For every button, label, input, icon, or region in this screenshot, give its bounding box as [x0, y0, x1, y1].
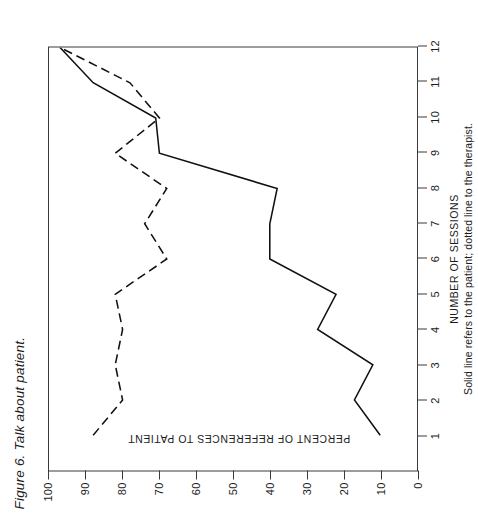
x-tick-mark: [418, 328, 427, 329]
figure-root: Figure 6. Talk about patient. 0102030405…: [0, 0, 478, 527]
y-tick-label: 50: [228, 482, 239, 522]
series-line-patient: [60, 47, 380, 435]
y-tick-label: 0: [413, 482, 424, 522]
plot-area: [48, 46, 418, 471]
y-tick-label: 10: [376, 482, 387, 522]
x-tick-label: 10: [430, 111, 441, 124]
x-tick-label: 12: [430, 40, 441, 53]
x-tick-label: 5: [430, 291, 441, 297]
x-tick-label: 9: [430, 149, 441, 155]
y-tick-label: 100: [43, 482, 54, 522]
x-tick-label: 3: [430, 362, 441, 368]
x-tick-label: 6: [430, 255, 441, 261]
x-tick-mark: [418, 80, 427, 81]
y-tick-label: 70: [154, 482, 165, 522]
y-axis-title: PERCENT OF REFERENCES TO PATIENT: [54, 432, 424, 444]
x-tick-label: 2: [430, 397, 441, 403]
x-tick-mark: [418, 293, 427, 294]
x-tick-mark: [418, 187, 427, 188]
x-tick-label: 1: [430, 432, 441, 438]
x-tick-mark: [418, 222, 427, 223]
y-tick-label: 90: [80, 482, 91, 522]
x-tick-mark: [418, 151, 427, 152]
y-tick-mark: [418, 470, 419, 479]
series-line-therapist: [60, 47, 167, 435]
x-tick-mark: [418, 258, 427, 259]
y-tick-label: 60: [191, 482, 202, 522]
figure-caption: Solid line refers to the patient; dotted…: [462, 46, 474, 471]
y-tick-label: 20: [339, 482, 350, 522]
figure-6: Figure 6. Talk about patient. 0102030405…: [0, 0, 478, 527]
y-tick-label: 80: [117, 482, 128, 522]
x-tick-mark: [418, 399, 427, 400]
x-tick-label: 8: [430, 185, 441, 191]
rotated-page-content: Figure 6. Talk about patient. 0102030405…: [0, 0, 478, 527]
x-tick-mark: [418, 364, 427, 365]
figure-title: Figure 6. Talk about patient.: [12, 336, 27, 509]
y-tick-label: 30: [302, 482, 313, 522]
y-tick-label: 40: [265, 482, 276, 522]
x-axis-title: NUMBER OF SESSIONS: [448, 46, 460, 471]
plot-lines: [49, 47, 417, 470]
x-tick-label: 7: [430, 220, 441, 226]
x-tick-mark: [418, 116, 427, 117]
x-tick-label: 4: [430, 326, 441, 332]
x-tick-label: 11: [430, 76, 441, 88]
x-tick-mark: [418, 45, 427, 46]
